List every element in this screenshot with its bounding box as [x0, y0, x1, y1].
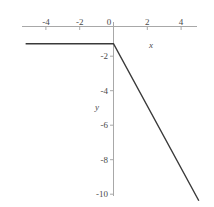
y-tick-label--10: -10: [96, 190, 108, 199]
y-tick-label--6: -6: [101, 121, 109, 130]
x-tick-label-2: 2: [145, 18, 150, 27]
y-tick-label--4: -4: [101, 86, 109, 95]
x-axis-label: x: [149, 41, 153, 50]
x-tick-label--2: -2: [76, 18, 84, 27]
x-tick-label--4: -4: [42, 18, 50, 27]
plot-canvas: [0, 0, 214, 207]
y-axis-ticks: [110, 56, 114, 194]
y-tick-label--2: -2: [101, 52, 109, 61]
y-tick-label--8: -8: [101, 155, 109, 164]
x-tick-label-4: 4: [179, 18, 184, 27]
function-curve: [26, 44, 199, 201]
chart-figure: -4 -2 0 2 4 -2 -4 -6 -8 -10 x y: [0, 0, 214, 207]
y-axis-label: y: [95, 103, 99, 112]
x-tick-label-0: 0: [107, 18, 112, 27]
